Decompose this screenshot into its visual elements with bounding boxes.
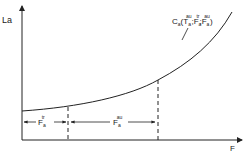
interval-label-2: Faau: [113, 114, 122, 128]
interval-label-1: Fatr: [38, 114, 46, 128]
cost-diagram: La F Ca(Taau;Fatr;Faau) Fatr Faau: [0, 0, 245, 151]
y-axis-label: La: [2, 15, 12, 25]
curve-label: Ca(Taau;Fatr;Faau): [172, 13, 213, 27]
curve-label-leader: [182, 28, 188, 40]
x-axis-label: F: [230, 144, 235, 151]
